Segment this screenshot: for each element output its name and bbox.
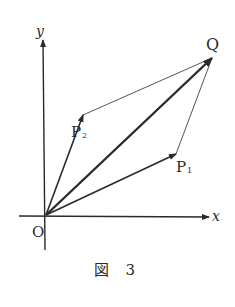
p2-label: P — [71, 123, 81, 141]
p1-label: P — [176, 158, 186, 176]
segment-p1-q — [176, 58, 212, 154]
x-axis-label: x — [212, 208, 220, 224]
origin-label: O — [32, 223, 44, 241]
x-axis — [19, 216, 209, 217]
p1-subscript: 1 — [187, 166, 192, 175]
p2-subscript: 2 — [82, 131, 87, 140]
y-axis-label: y — [35, 23, 45, 39]
q-label: Q — [206, 35, 219, 54]
segment-p2-q — [83, 58, 212, 115]
y-axis — [43, 40, 45, 250]
figure-caption: 図 3 — [0, 258, 235, 279]
